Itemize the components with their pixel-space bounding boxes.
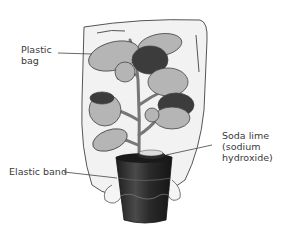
label-plastic-bag: Plastic bag: [21, 44, 52, 66]
label-soda-lime: Soda lime (sodium hydroxide): [222, 130, 273, 163]
diagram-canvas: [0, 0, 282, 231]
label-elastic-band: Elastic band: [9, 166, 67, 177]
plant-pot: [116, 153, 172, 223]
soda-lime-dish: [137, 150, 165, 159]
